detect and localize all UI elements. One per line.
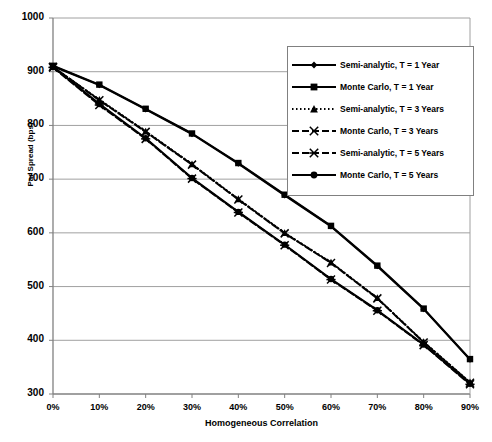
x-axis-tick-label: 40%	[218, 402, 258, 412]
legend-label: Monte Carlo, T = 5 Years	[340, 170, 438, 180]
x-axis-tick-label: 80%	[404, 402, 444, 412]
y-axis-tick-label: 1000	[0, 11, 44, 22]
x-axis-tick-label: 10%	[79, 402, 119, 412]
y-axis-tick-label: 400	[0, 333, 44, 344]
x-axis-title: Homogeneous Correlation	[53, 418, 470, 428]
y-axis-title: Par Spread (bps)	[26, 95, 35, 215]
x-axis-tick-label: 20%	[126, 402, 166, 412]
x-axis-tick-label: 60%	[311, 402, 351, 412]
legend-marker-asterisk-icon	[288, 144, 340, 162]
chart-container: 3004005006007008009001000 0%10%20%30%40%…	[0, 0, 492, 442]
legend-label: Semi-analytic, T = 5 Years	[340, 148, 444, 158]
legend-label: Semi-analytic, T = 3 Years	[340, 104, 444, 114]
legend-item: Semi-analytic, T = 3 Years	[288, 99, 473, 119]
legend-label: Monte Carlo, T = 3 Years	[340, 126, 438, 136]
legend-label: Monte Carlo, T = 1 Year	[340, 82, 434, 92]
x-axis-tick-label: 70%	[357, 402, 397, 412]
x-axis-tick-label: 90%	[450, 402, 490, 412]
legend-label: Semi-analytic, T = 1 Year	[340, 60, 439, 70]
x-axis-tick-label: 50%	[265, 402, 305, 412]
legend-marker-triangle-icon	[288, 100, 340, 118]
y-axis-tick-label: 300	[0, 387, 44, 398]
y-axis-tick-label: 800	[0, 118, 44, 129]
legend-marker-circle-icon	[288, 166, 340, 184]
y-axis-tick-label: 500	[0, 280, 44, 291]
chart-legend: Semi-analytic, T = 1 YearMonte Carlo, T …	[287, 46, 474, 196]
y-axis-tick-label: 700	[0, 172, 44, 183]
legend-marker-x-icon	[288, 122, 340, 140]
legend-item: Semi-analytic, T = 1 Year	[288, 55, 473, 75]
legend-item: Monte Carlo, T = 5 Years	[288, 165, 473, 185]
y-axis-tick-label: 600	[0, 226, 44, 237]
x-axis-tick-label: 0%	[33, 402, 73, 412]
legend-item: Monte Carlo, T = 1 Year	[288, 77, 473, 97]
legend-item: Monte Carlo, T = 3 Years	[288, 121, 473, 141]
legend-marker-square-icon	[288, 78, 340, 96]
legend-item: Semi-analytic, T = 5 Years	[288, 143, 473, 163]
legend-marker-diamond-icon	[288, 56, 340, 74]
x-axis-tick-label: 30%	[172, 402, 212, 412]
y-axis-tick-label: 900	[0, 65, 44, 76]
